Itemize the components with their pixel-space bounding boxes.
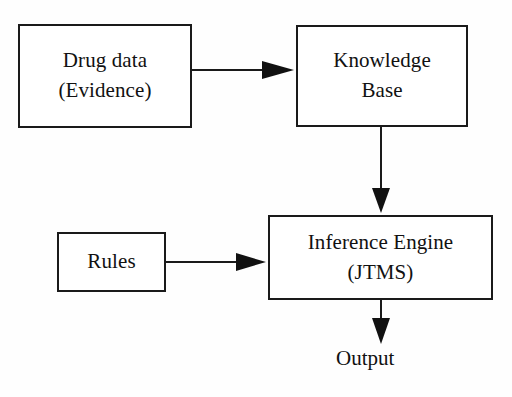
node-drug-data-line1: Drug data [63, 46, 147, 76]
node-rules[interactable]: Rules [57, 232, 166, 292]
diagram-canvas: Drug data (Evidence) Knowledge Base Rule… [0, 0, 512, 397]
label-output-text: Output [336, 346, 394, 370]
edge-rules-to-inference-engine [166, 253, 266, 271]
node-inference-engine[interactable]: Inference Engine (JTMS) [268, 215, 493, 300]
node-inference-engine-line1: Inference Engine [308, 228, 454, 258]
edge-inference-engine-to-output [372, 300, 390, 344]
node-knowledge-base-line1: Knowledge [333, 46, 431, 76]
edge-drug-data-to-knowledge-base [192, 61, 294, 79]
node-knowledge-base[interactable]: Knowledge Base [296, 25, 468, 127]
edge-knowledge-base-to-inference-engine [372, 127, 390, 213]
node-drug-data-line2: (Evidence) [58, 76, 151, 106]
node-rules-line1: Rules [87, 247, 135, 277]
node-knowledge-base-line2: Base [361, 76, 402, 106]
node-inference-engine-line2: (JTMS) [348, 258, 414, 288]
label-output: Output [336, 346, 394, 371]
node-drug-data[interactable]: Drug data (Evidence) [18, 24, 192, 128]
